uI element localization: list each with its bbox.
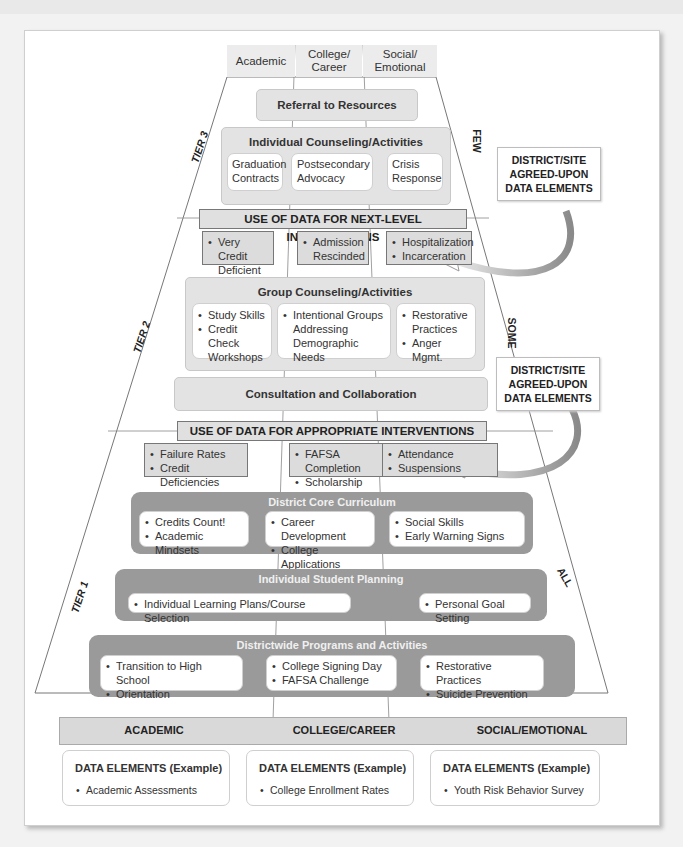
list-item: Study Skills [197,308,267,322]
domain-social-emotional: SOCIAL/EMOTIONAL [439,717,625,743]
reach-some-label: SOME [506,318,518,349]
student-planning-column: Individual Learning Plans/Course Selecti… [128,593,351,613]
list-item: Academic Mindsets [144,529,244,557]
core-curriculum-column: Career Development College Applications [265,511,375,547]
tier2-data-cell-college: FAFSA Completion Scholarship Apps [289,443,391,477]
list-item: Credit Check Workshops [197,322,267,364]
list-item: Career Development [270,515,370,543]
data-elements-title: DATA ELEMENTS (Example) [259,762,413,774]
data-elements-academic: DATA ELEMENTS (Example) Academic Assessm… [62,750,230,806]
core-curriculum-column: Credits Count! Academic Mindsets [139,511,249,547]
data-elements-callout-top: DISTRICT/SITE AGREED-UPON DATA ELEMENTS [497,147,601,201]
diagram-page: Academic College/ Career Social/ Emotion… [24,30,660,826]
list-item: Intentional Groups Addressing Demographi… [282,308,386,364]
data-item: Very Credit Deficient [207,235,269,277]
domain-academic: ACADEMIC [59,717,249,743]
core-curriculum-column: Social Skills Early Warning Signs [389,511,525,547]
list-item: Early Warning Signs [394,529,520,543]
districtwide-column: Transition to High School Orientation [100,655,243,691]
list-item: Transition to High School [105,659,238,687]
list-item: Individual Learning Plans/Course Selecti… [133,597,346,625]
data-item: FAFSA Completion [294,447,386,475]
data-item: Admission Rescinded [302,235,364,263]
data-item: Failure Rates [149,447,243,461]
column-header-social-emotional: Social/ Emotional [363,45,437,77]
individual-counseling-title: Individual Counseling/Activities [222,136,450,148]
tier2-data-cell-social: Attendance Suspensions [382,443,498,477]
district-core-curriculum-title: District Core Curriculum [131,496,533,508]
referral-to-resources-box: Referral to Resources [256,89,418,121]
group-counseling-title: Group Counseling/Activities [186,286,484,298]
list-item: Restorative Practices [425,659,539,687]
list-item: College Applications [270,543,370,571]
list-item: FAFSA Challenge [271,673,392,687]
data-element-item: Academic Assessments [75,784,229,796]
districtwide-programs-title: Districtwide Programs and Activities [89,639,575,651]
column-header-college-career: College/ Career [296,45,362,77]
data-item: Attendance [387,447,493,461]
data-elements-title: DATA ELEMENTS (Example) [443,762,599,774]
data-elements-callout-middle: DISTRICT/SITE AGREED-UPON DATA ELEMENTS [496,357,600,411]
domain-college-career: COLLEGE/CAREER [249,717,439,743]
individual-counseling-item: Postsecondary Advocacy [291,153,373,191]
data-item: Suspensions [387,461,493,475]
consultation-collaboration-box: Consultation and Collaboration [174,377,488,411]
districtwide-column: College Signing Day FAFSA Challenge [266,655,397,691]
tier3-data-cell-academic: Very Credit Deficient [202,231,274,265]
list-item: Suicide Prevention [425,687,539,701]
districtwide-column: Restorative Practices Suicide Prevention [420,655,544,691]
list-item: Restorative Practices [401,308,471,336]
data-item: Incarceration [391,249,467,263]
list-item: Personal Goal Setting [424,597,526,625]
data-elements-title: DATA ELEMENTS (Example) [75,762,229,774]
individual-counseling-item: Crisis Response [387,153,443,191]
list-item: Credits Count! [144,515,244,529]
list-item: College Signing Day [271,659,392,673]
tier3-data-cell-college: Admission Rescinded [297,231,369,265]
data-item: Hospitalization [391,235,467,249]
reach-few-label: FEW [471,129,483,152]
group-counseling-column: Restorative Practices Anger Mgmt. [396,303,476,359]
student-planning-column: Personal Goal Setting [419,593,531,613]
data-element-item: Youth Risk Behavior Survey [443,784,599,796]
data-elements-social-emotional: DATA ELEMENTS (Example) Youth Risk Behav… [430,750,600,806]
column-header-academic: Academic [227,45,295,77]
appropriate-interventions-bar: USE OF DATA FOR APPROPRIATE INTERVENTION… [177,421,487,441]
tier2-data-cell-academic: Failure Rates Credit Deficiencies [144,443,248,477]
list-item: Social Skills [394,515,520,529]
list-item: Orientation [105,687,238,701]
tier3-data-cell-social: Hospitalization Incarceration [386,231,472,265]
group-counseling-column: Study Skills Credit Check Workshops [192,303,272,359]
individual-counseling-item: Graduation Contracts [227,153,283,191]
individual-student-planning-title: Individual Student Planning [115,573,547,585]
data-item: Credit Deficiencies [149,461,243,489]
top-strip [0,0,683,14]
data-elements-college-career: DATA ELEMENTS (Example) College Enrollme… [246,750,414,806]
data-element-item: College Enrollment Rates [259,784,413,796]
list-item: Anger Mgmt. [401,336,471,364]
group-counseling-column: Intentional Groups Addressing Demographi… [277,303,391,359]
next-level-interventions-bar: USE OF DATA FOR NEXT-LEVEL INTERVENTIONS [199,209,467,229]
